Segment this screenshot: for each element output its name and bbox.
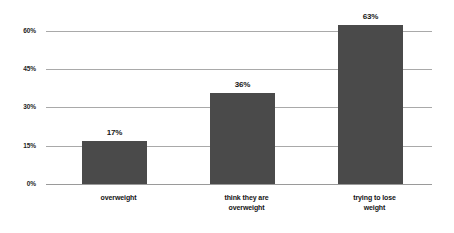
bar-group-trying-to-lose-weight[interactable]: 63% — [338, 10, 403, 184]
x-axis-label-line: trying to lose — [298, 193, 451, 203]
x-axis-category-label-trying-to-lose-weight: trying to lose weight — [298, 193, 451, 213]
bar-rect[interactable] — [210, 93, 275, 184]
bar-value-label: 36% — [235, 81, 250, 89]
plot-area: 17% 36% 63% — [46, 10, 432, 184]
y-axis-tick-label-45: 45% — [2, 66, 36, 73]
y-axis-tick-label-15: 15% — [2, 143, 36, 150]
gridline-axis-baseline — [46, 184, 432, 185]
bar-rect[interactable] — [82, 141, 147, 184]
bar-value-label: 17% — [107, 129, 122, 137]
bar-group-think-they-are-overweight[interactable]: 36% — [210, 10, 275, 184]
bar-chart: 60% 45% 30% 15% 0% 17% 36% 63% overweigh… — [0, 0, 454, 233]
bar-group-overweight[interactable]: 17% — [82, 10, 147, 184]
y-axis-tick-label-30: 30% — [2, 104, 36, 111]
bar-value-label: 63% — [363, 13, 378, 21]
y-axis-tick-label-60: 60% — [2, 28, 36, 35]
y-axis-tick-label-0: 0% — [2, 181, 36, 188]
bar-rect[interactable] — [338, 25, 403, 184]
x-axis-label-line: weight — [298, 203, 451, 213]
